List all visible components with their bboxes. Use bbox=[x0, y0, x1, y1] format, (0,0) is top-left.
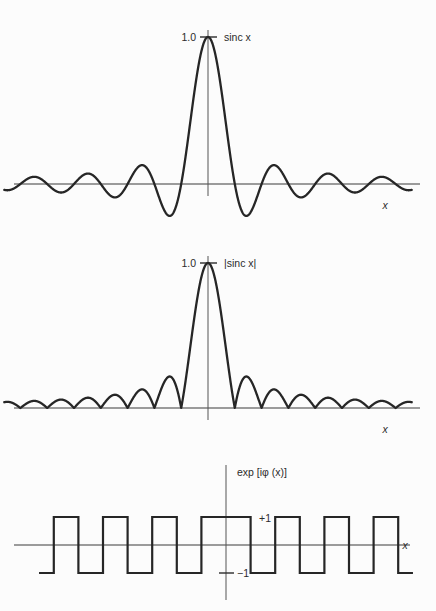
panel-sinc-x: 1.0 sinc x x bbox=[0, 0, 436, 230]
panel-abs-sinc-x: 1.0 |sinc x| x bbox=[0, 230, 436, 440]
sinc-function-figure: 1.0 sinc x x 1.0 |sinc x| x exp [iφ (x)]… bbox=[0, 0, 436, 611]
x-axis-label-panel2: x bbox=[381, 423, 388, 435]
series-label-panel3: exp [iφ (x)] bbox=[237, 466, 287, 478]
x-axis-label-panel1: x bbox=[381, 199, 388, 211]
peak-tick-label-panel2: 1.0 bbox=[181, 257, 196, 269]
panel-sinc-x-plot: 1.0 sinc x x bbox=[0, 0, 436, 230]
panel-phase-plot: exp [iφ (x)] +1 −1 x bbox=[0, 440, 436, 611]
plus-one-label: +1 bbox=[259, 512, 271, 524]
peak-tick-label-panel1: 1.0 bbox=[181, 31, 196, 43]
series-label-panel2: |sinc x| bbox=[224, 257, 256, 269]
series-label-panel1: sinc x bbox=[224, 31, 252, 43]
x-axis-label-panel3: x bbox=[401, 539, 408, 551]
minus-one-label: −1 bbox=[237, 567, 249, 579]
panel-abs-sinc-x-plot: 1.0 |sinc x| x bbox=[0, 230, 436, 440]
panel-phase: exp [iφ (x)] +1 −1 x bbox=[0, 440, 436, 611]
